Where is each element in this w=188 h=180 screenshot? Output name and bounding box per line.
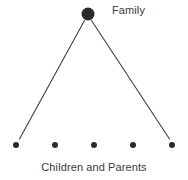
filled-dot-icon-leaf-2[interactable] [52,142,58,148]
edge-root-to-leftmost [20,21,85,140]
edge-root-to-rightmost [92,21,170,140]
filled-circle-icon-root-node[interactable] [82,8,95,21]
leaf-row-caption: Children and Parents [0,161,188,174]
diagram-canvas [0,0,188,180]
filled-dot-icon-leaf-4[interactable] [130,142,136,148]
edge-group [20,21,170,140]
filled-dot-icon-leaf-1[interactable] [13,142,19,148]
filled-dot-icon-leaf-5[interactable] [169,142,175,148]
family-hierarchy-diagram: Family Children and Parents [0,0,188,180]
root-node-label: Family [112,4,145,16]
leaf-node-group [13,142,175,148]
filled-dot-icon-leaf-3[interactable] [91,142,97,148]
